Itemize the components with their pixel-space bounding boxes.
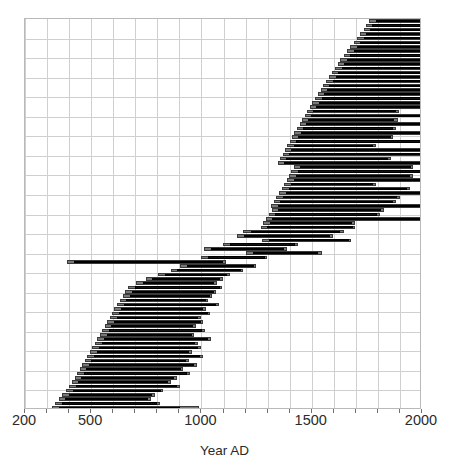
bar-inner-range <box>278 205 421 207</box>
bar-inner-range <box>130 295 210 297</box>
bar-inner-range <box>94 355 200 357</box>
bar-inner-range <box>366 33 421 35</box>
bar-inner-range <box>303 127 393 129</box>
bar-inner-range <box>121 308 203 310</box>
bar-inner-range <box>298 136 390 138</box>
chart-figure: 200500100015002000 Year AD <box>0 0 449 472</box>
bar-inner-range <box>111 325 193 327</box>
bar-inner-range <box>342 67 422 69</box>
bar-inner-range <box>69 394 152 396</box>
bar-inner-range <box>316 106 421 108</box>
bar-inner-range <box>311 115 421 117</box>
bar-inner-range <box>364 37 421 39</box>
bar-inner-range <box>84 372 187 374</box>
bar-inner-range <box>286 158 387 160</box>
bar-inner-range <box>319 102 421 104</box>
bar-inner-range <box>272 218 421 220</box>
bar-inner-range <box>284 162 421 164</box>
bar-inner-range <box>350 54 421 56</box>
bar-inner-range <box>313 110 395 112</box>
bar-inner-range <box>152 278 220 280</box>
bars-layer <box>25 19 420 408</box>
bar-inner-range <box>104 338 208 340</box>
bar-inner-range <box>344 63 421 65</box>
bar-inner-range <box>300 166 410 168</box>
bar-inner-range <box>76 385 177 387</box>
x-axis-title: Year AD <box>0 443 449 458</box>
bar-inner-range <box>376 20 421 22</box>
bar-inner-range <box>324 93 421 95</box>
bar-inner-range <box>306 123 421 125</box>
x-axis-tick-label: 500 <box>78 412 102 428</box>
bar-inner-range <box>126 299 205 301</box>
bar-inner-range <box>251 231 340 233</box>
bar-inner-range <box>370 29 422 31</box>
bar-inner-range <box>296 175 410 177</box>
bar-inner-range <box>253 252 318 254</box>
bar-inner-range <box>301 132 421 134</box>
bar-inner-range <box>267 226 352 228</box>
bar-inner-range <box>187 265 254 267</box>
bar-inner-range <box>291 149 421 151</box>
bar-inner-range <box>86 368 180 370</box>
x-axis-tick-label: 2000 <box>405 412 437 428</box>
bar-inner-range <box>62 402 157 404</box>
bar-inner-range <box>289 153 421 155</box>
bar-inner-range <box>270 222 352 224</box>
bar-inner-range <box>278 209 381 211</box>
bar-inner-range <box>327 89 421 91</box>
bar-inner-range <box>283 196 397 198</box>
x-axis-tick-label: 200 <box>12 412 36 428</box>
bar-inner-range <box>117 317 199 319</box>
bar-inner-range <box>286 192 421 194</box>
bar-inner-range <box>73 390 161 392</box>
bar-inner-range <box>347 59 421 61</box>
bar-inner-range <box>211 248 284 250</box>
bar-inner-range <box>74 261 224 263</box>
x-axis-tick-label: 1500 <box>295 412 327 428</box>
bar-inner-range <box>124 304 217 306</box>
bar-inner-range <box>208 256 265 258</box>
bar-inner-range <box>298 170 421 172</box>
bar-inner-range <box>329 85 421 87</box>
bar-inner-range <box>336 76 421 78</box>
bar-inner-range <box>289 188 407 190</box>
bar-inner-range <box>308 119 394 121</box>
bar-inner-range <box>294 179 421 181</box>
bar-inner-range <box>102 342 196 344</box>
bar-inner-range <box>354 50 421 52</box>
bar-inner-range <box>280 201 392 203</box>
bar-inner-range <box>81 377 174 379</box>
bar-inner-range <box>357 46 421 48</box>
bar-inner-range <box>119 312 208 314</box>
bar-inner-range <box>114 321 201 323</box>
bar-inner-range <box>165 274 227 276</box>
bar-inner-range <box>294 145 373 147</box>
bar-inner-range <box>135 286 220 288</box>
bar-inner-range <box>91 360 186 362</box>
bar-inner-range <box>269 239 349 241</box>
bar-inner-range <box>97 351 190 353</box>
bar-inner-range <box>99 347 198 349</box>
bar-inner-range <box>322 97 421 99</box>
bar-inner-range <box>291 183 373 185</box>
bar-inner-range <box>360 42 421 44</box>
bar-inner-range <box>244 235 330 237</box>
bar-inner-range <box>89 364 195 366</box>
x-axis-tick-label: 1000 <box>184 412 216 428</box>
bar-inner-range <box>78 381 168 383</box>
bar-inner-range <box>65 398 148 400</box>
bar-inner-range <box>333 80 421 82</box>
bar-inner-range <box>372 24 421 26</box>
bar-inner-range <box>338 72 421 74</box>
bar-inner-range <box>132 291 214 293</box>
bar-inner-range <box>143 282 214 284</box>
bar-inner-range <box>275 213 376 215</box>
x-axis-tick-labels: 200500100015002000 <box>0 412 449 434</box>
plot-panel <box>24 18 421 409</box>
bar-inner-range <box>107 334 192 336</box>
bar-inner-range <box>109 329 202 331</box>
bar-inner-range <box>177 269 241 271</box>
bar-inner-range <box>296 140 421 142</box>
bar-inner-range <box>230 243 295 245</box>
